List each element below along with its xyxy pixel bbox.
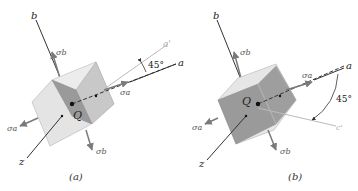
caption-b: (b) [288, 171, 302, 182]
angle-arc [141, 62, 146, 72]
sigma-a-left-label: σa [7, 124, 17, 133]
a-axis-label: a [178, 57, 184, 68]
origin-label: Q [73, 109, 82, 122]
caption-a: (a) [69, 171, 83, 182]
angle-label: 45° [336, 94, 352, 104]
face-center-dot [95, 95, 97, 97]
sigma-a-right-arrow [286, 82, 312, 90]
face-center-dot [61, 115, 63, 117]
origin-point [70, 102, 74, 106]
sigma-a-left-arrow [20, 118, 38, 126]
origin-label: Q [242, 95, 251, 108]
a-axis-solid [314, 68, 344, 80]
sigma-b-bottom-label: σb [280, 147, 291, 156]
face-center-dot [279, 95, 281, 97]
sigma-b-bottom-label: σb [96, 147, 107, 156]
a-axis-label: a [346, 60, 352, 71]
sigma-a-right-label: σa [302, 71, 312, 80]
b-axis-label: b [31, 10, 37, 21]
angle-label: 45° [148, 60, 164, 70]
stress-element-diagram: b a a' z Q σb σa σa σb 45° (a) [0, 0, 358, 191]
sigma-a-left-label: σa [192, 123, 202, 132]
sigma-a-left-arrow [205, 118, 218, 124]
panel-a: b a a' z Q σb σa σa σb 45° (a) [7, 10, 184, 182]
z-axis-label: z [198, 158, 205, 169]
angle-arc [312, 74, 338, 120]
b-axis [217, 20, 242, 82]
face-center-dot [245, 115, 247, 117]
sigma-b-top-label: σb [240, 48, 251, 57]
rotated-axis-label: c' [336, 123, 343, 132]
rotated-axis-label: a' [163, 39, 171, 49]
origin-point [256, 102, 260, 106]
sigma-b-bottom-arrow [86, 130, 92, 150]
sigma-b-bottom-arrow [268, 130, 276, 150]
b-axis-label: b [213, 10, 219, 21]
sigma-b-top-label: σb [56, 48, 67, 57]
z-axis-label: z [18, 156, 25, 167]
panel-b: b a c' z Q σb σa σa σb 45° (b) [192, 10, 352, 182]
sigma-a-right-label: σa [120, 88, 130, 97]
